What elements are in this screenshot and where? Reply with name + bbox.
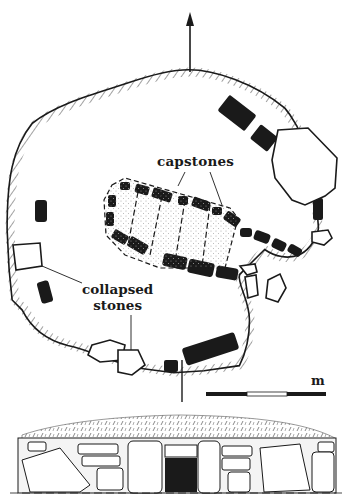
collapsed-stones-label: collapsed stones — [82, 281, 153, 313]
scale-unit-label: m — [311, 374, 325, 387]
capstones-label: capstones — [157, 155, 234, 169]
site-diagram: capstones collapsed stones m — [0, 0, 359, 504]
capstones-area — [104, 178, 238, 268]
scale-bar — [206, 392, 326, 396]
collapsed-stones-label-line1: collapsed — [82, 281, 153, 297]
collapsed-stones-label-line2: stones — [82, 297, 153, 313]
north-arrow-icon — [186, 12, 194, 72]
elevation-view — [10, 415, 345, 493]
